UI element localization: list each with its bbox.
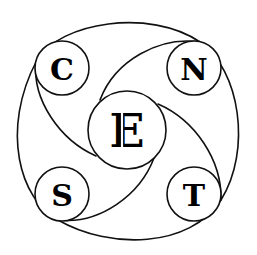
node-s: S (35, 167, 89, 221)
node-c-label: C (50, 52, 74, 87)
node-t-label: T (183, 178, 206, 213)
cnest-logo-diagram: C N S T E (0, 0, 257, 255)
node-s-label: S (51, 178, 73, 213)
diagram-canvas: C N S T E (0, 0, 257, 255)
node-c: C (35, 41, 89, 95)
node-t: T (167, 167, 221, 221)
node-n: N (167, 41, 221, 95)
node-e-center: E (88, 91, 166, 169)
node-e-label: E (109, 104, 144, 158)
node-n-label: N (180, 52, 207, 87)
